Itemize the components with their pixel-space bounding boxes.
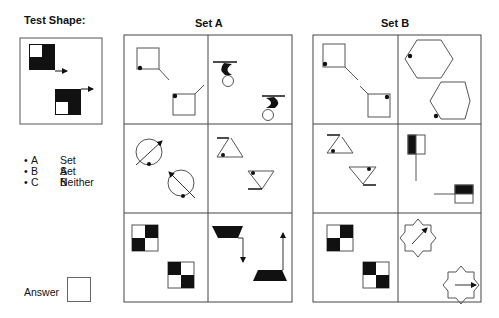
set-b-cell-3 — [327, 135, 376, 185]
set-a-cell-3 — [136, 139, 195, 198]
set-b-cell-2 — [405, 40, 470, 119]
set-a-cell-2 — [213, 62, 285, 121]
set-a-cell-5 — [132, 225, 194, 288]
set-b-cell-5 — [327, 225, 389, 288]
test-shape-panel — [20, 38, 102, 124]
set-a-cell-1 — [137, 48, 204, 115]
set-b-cell-1 — [323, 44, 390, 117]
set-b-grid — [313, 35, 481, 302]
puzzle-figures — [0, 0, 499, 318]
set-a-cell-6 — [212, 226, 287, 281]
set-b-cell-6 — [400, 219, 479, 304]
set-a-grid — [124, 35, 292, 302]
set-a-cell-4 — [217, 138, 274, 189]
set-b-cell-4 — [408, 135, 473, 203]
